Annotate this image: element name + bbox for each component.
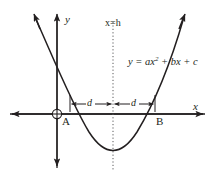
x-axis-label: x xyxy=(193,101,198,112)
parabola-right-arrow xyxy=(179,14,185,29)
parabola-diagram: y x x=h A B d d y = ax2 + bx + c xyxy=(0,0,213,176)
distance-right-label: d xyxy=(131,98,136,108)
equation-prefix: y = ax xyxy=(128,56,155,67)
distance-left-label: d xyxy=(87,98,92,108)
y-axis-label: y xyxy=(65,14,70,25)
equation-label: y = ax2 + bx + c xyxy=(128,57,198,68)
point-b-label: B xyxy=(156,116,163,127)
axis-of-symmetry-label: x=h xyxy=(105,18,121,28)
equation-suffix: + bx + c xyxy=(158,56,197,67)
point-a-label: A xyxy=(62,116,70,127)
origin-marker xyxy=(52,109,63,120)
parabola-left-arrow xyxy=(34,14,40,29)
